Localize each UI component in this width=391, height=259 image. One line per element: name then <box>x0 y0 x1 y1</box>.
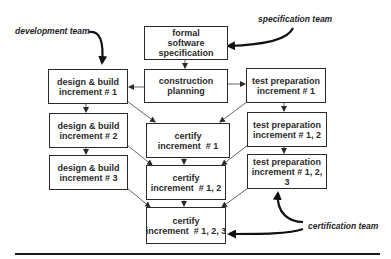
bottom-divider <box>15 253 380 255</box>
development-team-arrow <box>89 32 102 63</box>
development-team-label: development team <box>15 26 90 36</box>
box-text: certify <box>174 131 201 141</box>
specification-team-label: specification team <box>258 14 332 24</box>
certify-increment-1-2-3-box: certify increment # 1, 2, 3 <box>146 207 226 244</box>
formal-software-specification-box: formal software specification <box>144 26 228 60</box>
certification-team-arrow-cert <box>229 229 303 234</box>
box-text: design & build <box>58 121 120 131</box>
box-text: software <box>167 38 204 48</box>
box-text: test preparation <box>252 76 320 86</box>
box-text: certify <box>172 173 199 183</box>
box-text: increment # 1, 2, 3 <box>146 226 227 236</box>
box-text: increment # 1 <box>59 87 117 97</box>
certification-team-label: certification team <box>308 221 378 231</box>
design-build-increment-3-box: design & build increment # 3 <box>49 155 128 190</box>
box-text: design & build <box>57 77 119 87</box>
box-text: specification <box>158 48 213 58</box>
box-text: test preparation <box>253 120 321 130</box>
box-text: increment # 1, 2, 3 <box>248 167 326 187</box>
box-text: increment # 1 <box>257 86 315 96</box>
box-text: formal <box>172 28 200 38</box>
specification-team-arrow <box>228 28 293 46</box>
certification-team-arrow-test <box>278 193 303 222</box>
box-text: increment # 1, 2 <box>253 130 321 140</box>
certify-increment-1-2-box: certify increment # 1, 2 <box>146 165 226 200</box>
box-text: increment # 2 <box>59 131 117 141</box>
construction-planning-box: construction planning <box>144 69 228 103</box>
box-text: test preparation <box>253 157 321 167</box>
box-text: certify <box>172 216 199 226</box>
box-text: increment # 3 <box>59 173 117 183</box>
box-text: planning <box>167 86 205 96</box>
test-preparation-increment-1-box: test preparation increment # 1 <box>246 68 326 103</box>
design-build-increment-2-box: design & build increment # 2 <box>49 113 128 148</box>
design-build-increment-1-box: design & build increment # 1 <box>48 69 128 104</box>
certify-increment-1-box: certify increment # 1 <box>146 123 230 158</box>
test-preparation-increment-1-2-3-box: test preparation increment # 1, 2, 3 <box>247 154 327 189</box>
box-text: increment # 1, 2 <box>151 183 222 193</box>
test-preparation-increment-1-2-box: test preparation increment # 1, 2 <box>247 112 327 147</box>
box-text: increment # 1 <box>158 141 219 151</box>
box-text: design & build <box>58 163 120 173</box>
box-text: construction <box>159 76 214 86</box>
